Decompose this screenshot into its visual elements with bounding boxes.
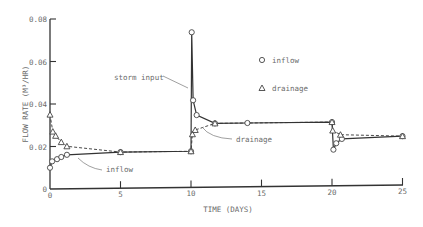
legend-drainage-label: drainage [272, 84, 309, 93]
y-axis-label: FLOW RATE (M³/HR) [21, 66, 30, 143]
x-tick-label: 20 [327, 188, 337, 197]
inflow-point-icon [334, 141, 339, 146]
legend-inflow-label: inflow [272, 56, 300, 65]
x-tick-label: 25 [398, 187, 407, 196]
inflow-point-icon [50, 159, 55, 164]
drainage-point-icon [47, 112, 53, 118]
inflow-line [50, 32, 403, 167]
y-tick-label: 0.04 [29, 100, 48, 109]
inflow-point-icon [194, 112, 199, 117]
y-tick-label: 0.02 [29, 143, 47, 152]
inflow-leader [78, 158, 102, 170]
x-tick-label: 0 [48, 191, 53, 200]
x-axis [50, 185, 403, 189]
x-tick-label: 15 [257, 189, 266, 198]
x-tick-label: 10 [186, 189, 196, 198]
axes [50, 19, 403, 189]
drainage-point-icon [64, 143, 70, 149]
inflow-point-icon [189, 30, 194, 35]
storm-input-leader [163, 76, 188, 88]
inflow-point-icon [47, 165, 52, 170]
legend-inflow-marker-icon [259, 57, 264, 62]
flow-rate-chart: 00.020.040.060.08 0510152025 TIME (DAYS)… [0, 0, 423, 227]
legend: inflow drainage [259, 56, 309, 93]
y-tick-label: 0.06 [29, 58, 48, 67]
inflow-annotation: inflow [106, 165, 134, 174]
x-axis-label: TIME (DAYS) [203, 205, 253, 214]
storm-input-annotation: storm input [114, 73, 164, 82]
annotations [78, 76, 232, 170]
inflow-point-icon [245, 120, 250, 125]
inflow-point-icon [191, 98, 196, 103]
drainage-point-icon [330, 128, 336, 134]
drainage-line [50, 115, 403, 152]
inflow-point-icon [331, 147, 336, 152]
inflow-point-icon [64, 152, 69, 157]
x-tick-label: 5 [118, 190, 123, 199]
legend-drainage-marker-icon [259, 85, 265, 91]
drainage-annotation: drainage [236, 135, 273, 144]
y-tick-label: 0.08 [29, 15, 48, 24]
y-tick-label: 0 [42, 185, 47, 194]
drainage-leader [202, 127, 232, 139]
series-layer [47, 30, 406, 171]
inflow-point-icon [59, 154, 64, 159]
